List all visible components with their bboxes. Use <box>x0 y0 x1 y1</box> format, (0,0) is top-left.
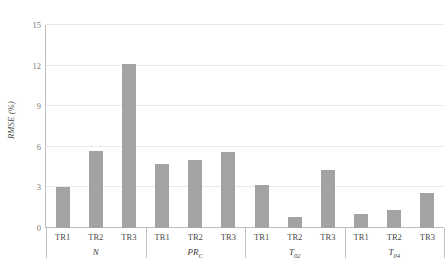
gridline-12 <box>46 65 444 66</box>
group-label: N <box>56 247 136 257</box>
bar <box>188 160 202 228</box>
y-tick-label: 9 <box>0 101 45 111</box>
group-separator <box>146 228 147 258</box>
group-separator <box>444 228 445 258</box>
gridline-9 <box>46 105 444 106</box>
y-axis-title: RMSE (%) <box>0 0 22 240</box>
bar <box>387 210 401 228</box>
bar <box>56 187 70 228</box>
y-tick-label: 6 <box>0 142 45 152</box>
bar <box>354 214 368 228</box>
bar <box>89 151 103 228</box>
bar <box>288 217 302 228</box>
bar <box>420 193 434 228</box>
gridline-6 <box>46 146 444 147</box>
group-label: PRC <box>155 247 235 259</box>
bar <box>321 170 335 228</box>
gridline-3 <box>46 186 444 187</box>
group-separator <box>46 228 47 258</box>
bar <box>255 185 269 228</box>
y-tick-label: 15 <box>0 20 45 30</box>
y-tick-label: 3 <box>0 182 45 192</box>
group-label: T02 <box>255 247 335 259</box>
bar <box>221 152 235 228</box>
y-tick-label: 12 <box>0 61 45 71</box>
gridline-15 <box>46 24 444 25</box>
bar <box>155 164 169 228</box>
group-separator <box>245 228 246 258</box>
bar-chart-figure: RMSE (%) 03691215 TR1TR2TR3NTR1TR2TR3PRC… <box>0 0 448 273</box>
group-separator <box>345 228 346 258</box>
y-tick-label: 0 <box>0 223 45 233</box>
bar <box>122 64 136 228</box>
x-tick-label: TR3 <box>407 232 447 242</box>
plot-area <box>46 25 444 228</box>
group-label: T04 <box>354 247 434 259</box>
category-axis: TR1TR2TR3NTR1TR2TR3PRCTR1TR2TR3T02TR1TR2… <box>46 228 444 273</box>
